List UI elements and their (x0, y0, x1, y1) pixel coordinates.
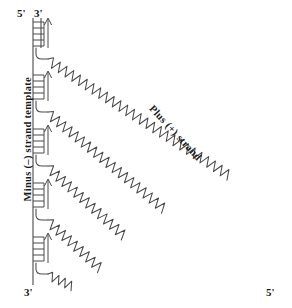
label-3-prime-top: 3' (34, 8, 43, 19)
diagram-canvas (0, 0, 292, 308)
synthesis-direction-arrow-3 (44, 125, 51, 155)
plus-strand-5 (36, 263, 75, 291)
synthesis-direction-arrow-1 (44, 18, 51, 48)
label-5-prime-bottom: 5' (266, 287, 275, 298)
replication-diagram: 5' 3' 3' 5' Minus (–) strand template Pl… (0, 0, 292, 308)
primer-ladder-1 (33, 22, 44, 46)
label-5-prime-top: 5' (17, 8, 26, 19)
synthesis-direction-arrow-group (44, 18, 51, 263)
plus-strand-4 (36, 209, 104, 273)
synthesis-direction-arrow-5 (44, 233, 51, 263)
synthesis-direction-arrow-2 (44, 71, 51, 101)
primer-ladder-4 (33, 183, 44, 207)
primer-ladder-5 (33, 237, 44, 261)
primer-ladder-3 (33, 129, 44, 153)
synthesis-direction-arrow-4 (44, 179, 51, 209)
primer-ladder-2 (33, 75, 44, 99)
label-minus-strand-template: Minus (–) strand template (23, 64, 34, 214)
label-3-prime-bottom: 3' (24, 287, 33, 298)
